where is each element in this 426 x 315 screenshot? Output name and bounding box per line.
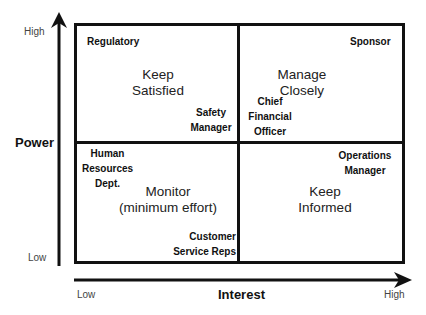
x-axis-low-label: Low — [77, 289, 95, 300]
x-axis-high-label: High — [384, 289, 405, 300]
stakeholder-operations-manager: Operations Manager — [334, 148, 396, 178]
y-axis-high-label: High — [24, 26, 45, 37]
stakeholder-chief-financial-officer: Chief Financial Officer — [245, 94, 295, 139]
strategy-monitor: Monitor (minimum effort) — [113, 184, 223, 216]
y-axis-title: Power — [15, 135, 54, 150]
stakeholder-sponsor: Sponsor — [350, 34, 391, 49]
stakeholder-safety-manager: Safety Manager — [186, 105, 236, 135]
stakeholder-regulatory: Regulatory — [87, 34, 139, 49]
stakeholder-customer-service-reps: Customer Service Reps — [170, 229, 236, 259]
strategy-keep-satisfied: Keep Satisfied — [128, 67, 188, 99]
horizontal-divider — [74, 141, 405, 144]
y-axis-low-label: Low — [28, 252, 46, 263]
x-axis-title: Interest — [218, 287, 265, 302]
strategy-keep-informed: Keep Informed — [290, 184, 360, 216]
